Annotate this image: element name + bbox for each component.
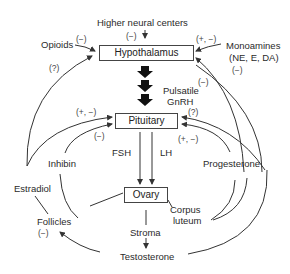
gnrh-label: GnRH [167,96,193,107]
stroma-label: Stroma [130,227,161,238]
progesterone-pituitary-effect: (+, −) [178,134,198,144]
higher-neural-centers-label: Higher neural centers [97,17,188,28]
inhibin-label: Inhibin [48,158,76,169]
estradiol-hypothalamus-effect: (?) [49,63,59,73]
inhibin-effect: (−) [94,131,105,141]
monoamines-label: Monoamines [226,40,280,51]
follicles-label: Follicles [37,216,71,227]
hypothalamus-box: Hypothalamus [99,45,194,61]
pulsatile-effect: (−) [198,77,209,87]
monoamines-abbrev-label: (NE, E, DA) [229,52,279,63]
follicles-effect: (−) [38,228,49,238]
lh-label: LH [160,147,172,158]
hpo-axis-diagram: Higher neural centers (−) Hypothalamus O… [0,0,290,274]
opioids-effect: (−) [76,34,87,44]
pulsatile-label: Pulsatile [163,85,199,96]
estradiol-label: Estradiol [14,183,51,194]
progesterone-pituitary-top-effect: (?) [188,107,198,117]
monoamines-lower-effect: (−) [232,65,243,75]
testosterone-label: Testosterone [120,251,174,262]
fsh-label: FSH [112,147,131,158]
estradiol-pituitary-effect: (+, −) [76,107,96,117]
luteum-label: luteum [173,215,202,226]
corpus-label: Corpus [170,204,201,215]
ovary-box: Ovary [124,187,168,203]
monoamines-effect: (+, −) [196,34,216,44]
progesterone-label: Progesterone [203,158,260,169]
higher-neural-effect: (−) [126,31,137,41]
opioids-label: Opioids [41,39,73,50]
pituitary-box: Pituitary [115,113,178,129]
